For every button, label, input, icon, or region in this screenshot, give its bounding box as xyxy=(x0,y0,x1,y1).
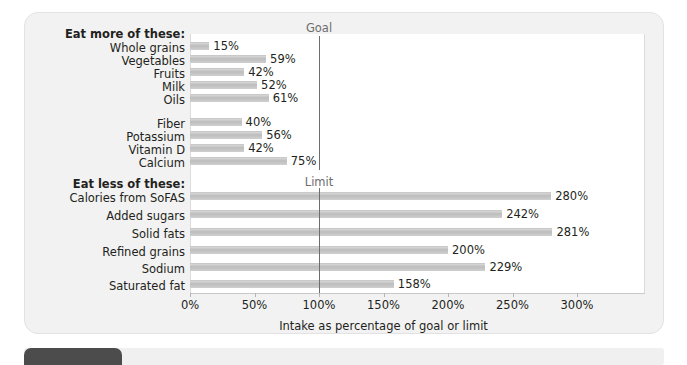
chart-screenshot: Eat more of these:Whole grainsVegetables… xyxy=(0,0,687,365)
category-label: Fiber xyxy=(30,118,185,130)
bar xyxy=(190,81,257,89)
goal-reference-line xyxy=(319,36,320,170)
x-tick-label: 100% xyxy=(303,299,336,312)
limit-label: Limit xyxy=(305,176,334,188)
category-label: Sodium xyxy=(30,263,185,275)
x-tick-label: 50% xyxy=(242,299,268,312)
x-tick xyxy=(577,293,578,297)
bar-value-label: 42% xyxy=(248,142,274,154)
category-label: Saturated fat xyxy=(30,280,185,292)
bar-value-label: 61% xyxy=(273,92,299,104)
section-header: Eat less of these: xyxy=(30,178,185,190)
category-label: Calories from SoFAS xyxy=(30,192,185,204)
bar-value-label: 242% xyxy=(506,208,539,220)
bar-value-label: 42% xyxy=(248,66,274,78)
x-tick xyxy=(513,293,514,297)
section-header: Eat more of these: xyxy=(30,28,185,40)
bar xyxy=(190,157,287,165)
bar xyxy=(190,228,552,236)
x-tick-label: 200% xyxy=(432,299,465,312)
bar-value-label: 56% xyxy=(266,129,292,141)
x-tick xyxy=(384,293,385,297)
category-label: Whole grains xyxy=(30,42,185,54)
x-axis-title-text: Intake as percentage of goal or limit xyxy=(279,319,488,333)
bar xyxy=(190,210,502,218)
category-label: Fruits xyxy=(30,68,185,80)
category-label: Oils xyxy=(30,94,185,106)
bar-value-label: 281% xyxy=(556,226,589,238)
bar-value-label: 158% xyxy=(398,278,431,290)
bar xyxy=(190,55,266,63)
bar xyxy=(190,280,394,288)
x-tick xyxy=(319,293,320,297)
category-label: Calcium xyxy=(30,157,185,169)
bar-value-label: 229% xyxy=(489,261,522,273)
category-label: Vegetables xyxy=(30,55,185,67)
bar-value-label: 52% xyxy=(261,79,287,91)
bar xyxy=(190,144,244,152)
bar xyxy=(190,263,485,271)
bar-value-label: 280% xyxy=(555,190,588,202)
bar xyxy=(190,118,242,126)
bar xyxy=(190,192,551,200)
x-tick xyxy=(448,293,449,297)
category-label-column: Eat more of these:Whole grainsVegetables… xyxy=(30,24,185,299)
bars-layer: 15%59%42%52%61%40%56%42%75%280%242%281%2… xyxy=(190,34,645,293)
x-tick-label: 300% xyxy=(561,299,594,312)
x-axis-title: Intake as percentage of goal or limit xyxy=(0,319,687,333)
category-label: Refined grains xyxy=(30,246,185,258)
bottom-tab[interactable] xyxy=(24,348,122,365)
bar xyxy=(190,68,244,76)
bar-value-label: 75% xyxy=(291,155,317,167)
category-label: Added sugars xyxy=(30,210,185,222)
goal-label: Goal xyxy=(306,22,332,34)
category-label: Solid fats xyxy=(30,228,185,240)
bar-value-label: 59% xyxy=(270,53,296,65)
bar xyxy=(190,131,262,139)
x-tick-label: 0% xyxy=(181,299,199,312)
bar-value-label: 40% xyxy=(246,116,272,128)
category-label: Potassium xyxy=(30,131,185,143)
category-label: Vitamin D xyxy=(30,144,185,156)
x-tick xyxy=(190,293,191,297)
x-tick xyxy=(255,293,256,297)
category-label: Milk xyxy=(30,81,185,93)
bar-value-label: 15% xyxy=(213,40,239,52)
x-tick-label: 250% xyxy=(496,299,529,312)
bar-value-label: 200% xyxy=(452,244,485,256)
limit-reference-line xyxy=(319,188,320,293)
bar xyxy=(190,42,209,50)
bar xyxy=(190,94,269,102)
x-tick-label: 150% xyxy=(367,299,400,312)
